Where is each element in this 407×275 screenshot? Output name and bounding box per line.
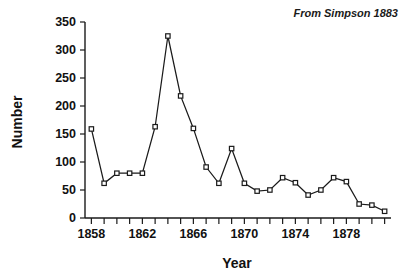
data-point-marker (127, 171, 131, 175)
x-tick-label: 1874 (281, 227, 309, 241)
data-point-marker (242, 181, 246, 185)
data-point-marker (344, 179, 348, 183)
x-axis-title-group: Year (222, 255, 252, 271)
data-point-marker (178, 94, 182, 98)
y-axis-title-group: Number (9, 95, 25, 148)
data-point-marker (204, 165, 208, 169)
y-tick-label: 100 (55, 155, 76, 169)
data-point-marker (370, 203, 374, 207)
y-tick-label: 50 (62, 183, 76, 197)
x-axis-ticks: 185818621866187018741878 (77, 218, 384, 241)
source-annotation: From Simpson 1883 (293, 7, 398, 19)
y-tick-label: 0 (69, 211, 76, 225)
x-tick-label: 1870 (230, 227, 258, 241)
data-point-marker (268, 188, 272, 192)
x-tick-label: 1866 (179, 227, 207, 241)
data-point-marker (217, 181, 221, 185)
x-tick-label: 1862 (128, 227, 156, 241)
y-axis-ticks: 050100150200250300350 (55, 15, 85, 225)
line-chart: From Simpson 1883 Number Year 0501001502… (0, 0, 407, 275)
y-axis-title: Number (9, 95, 25, 148)
data-point-marker (102, 181, 106, 185)
data-point-markers (89, 34, 387, 214)
data-point-marker (293, 181, 297, 185)
y-tick-label: 250 (55, 71, 76, 85)
data-point-marker (306, 193, 310, 197)
data-point-marker (153, 125, 157, 129)
source-annotation-group: From Simpson 1883 (293, 7, 398, 19)
data-point-marker (382, 209, 386, 213)
data-point-marker (89, 127, 93, 131)
x-tick-label: 1858 (77, 227, 105, 241)
y-tick-label: 150 (55, 127, 76, 141)
y-tick-label: 350 (55, 15, 76, 29)
data-point-marker (280, 175, 284, 179)
data-point-marker (191, 126, 195, 130)
x-axis-title: Year (222, 255, 252, 271)
data-point-marker (255, 189, 259, 193)
chart-container: From Simpson 1883 Number Year 0501001502… (0, 0, 407, 275)
data-series-line (91, 36, 384, 211)
data-point-marker (166, 34, 170, 38)
data-point-marker (229, 146, 233, 150)
data-point-marker (115, 171, 119, 175)
data-point-marker (140, 171, 144, 175)
y-tick-label: 200 (55, 99, 76, 113)
y-tick-label: 300 (55, 43, 76, 57)
data-point-marker (357, 202, 361, 206)
x-tick-label: 1878 (332, 227, 360, 241)
data-point-marker (319, 188, 323, 192)
data-point-marker (331, 175, 335, 179)
